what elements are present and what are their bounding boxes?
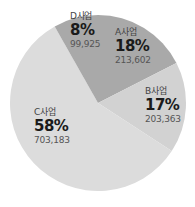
slice-label-b: B사업 17% 203,363	[145, 87, 181, 124]
slice-label-a: A사업 18% 213,602	[115, 28, 151, 65]
slice-name: C사업	[34, 108, 70, 117]
slice-name: D사업	[70, 12, 100, 21]
slice-value: 99,925	[70, 40, 100, 49]
slice-percent: 18%	[115, 39, 151, 54]
slice-value: 703,183	[34, 136, 70, 145]
slice-percent: 17%	[145, 98, 181, 113]
slice-percent: 58%	[34, 119, 70, 134]
slice-value: 213,602	[115, 56, 151, 65]
slice-name: B사업	[145, 87, 181, 96]
slice-value: 203,363	[145, 115, 181, 124]
slice-label-c: C사업 58% 703,183	[34, 108, 70, 145]
slice-percent: 8%	[70, 23, 100, 38]
slice-name: A사업	[115, 28, 151, 37]
slice-label-d: D사업 8% 99,925	[70, 12, 100, 49]
